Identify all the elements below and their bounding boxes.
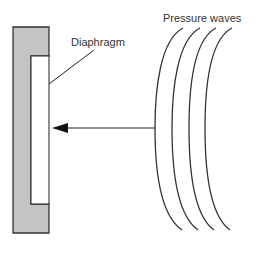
pressure-wave-1 [155, 28, 183, 230]
arrowhead-icon [52, 123, 68, 133]
microphone-diaphragm-diagram: Diaphragm Pressure waves [0, 0, 259, 256]
pressure-wave-4 [205, 28, 232, 230]
diaphragm-label: Diaphragm [71, 36, 125, 48]
pressure-waves [155, 28, 232, 230]
diaphragm-leader-line [49, 50, 94, 84]
diaphragm [31, 56, 49, 204]
pressure-waves-label: Pressure waves [163, 12, 242, 24]
